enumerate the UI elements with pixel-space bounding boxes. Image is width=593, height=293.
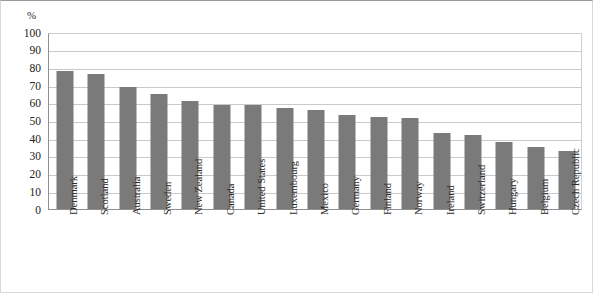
y-tick-label: 30 xyxy=(5,151,41,162)
x-tick-slot: Sweden xyxy=(142,213,173,293)
x-tick-slot: Canada xyxy=(205,213,236,293)
x-tick-label: Scotland xyxy=(100,178,111,215)
plot-area xyxy=(48,33,582,210)
x-tick-label: Canada xyxy=(226,184,237,216)
x-tick-slot: Norway xyxy=(394,213,425,293)
x-tick-label: Finland xyxy=(383,183,394,215)
y-tick-label: 70 xyxy=(5,81,41,92)
y-tick-label: 10 xyxy=(5,187,41,198)
x-tick-slot: Denmark xyxy=(48,213,79,293)
x-tick-slot: Ireland xyxy=(425,213,456,293)
x-tick-label: Denmark xyxy=(69,176,80,215)
y-tick-label: 40 xyxy=(5,134,41,145)
x-tick-label: Mexico xyxy=(320,183,331,215)
x-tick-label: Australia xyxy=(132,177,143,216)
x-tick-label: Norway xyxy=(414,181,425,215)
x-tick-slot: New Zealand xyxy=(174,213,205,293)
y-tick-label: 50 xyxy=(5,116,41,127)
y-axis-unit-label: % xyxy=(27,10,36,21)
bar-slot xyxy=(426,34,457,209)
x-tick-slot: Czech Republic xyxy=(551,213,582,293)
x-tick-label: Sweden xyxy=(163,182,174,215)
x-tick-label: Luxembourg xyxy=(289,161,300,215)
x-tick-slot: United States xyxy=(236,213,267,293)
x-tick-slot: Australia xyxy=(111,213,142,293)
x-tick-label: Ireland xyxy=(446,185,457,215)
y-tick-label: 60 xyxy=(5,98,41,109)
chart-figure: % 0102030405060708090100 DenmarkScotland… xyxy=(0,0,593,293)
y-tick-label: 100 xyxy=(5,28,41,39)
x-tick-label: Belgium xyxy=(540,179,551,215)
y-tick-label: 0 xyxy=(5,205,41,216)
x-tick-slot: Germany xyxy=(331,213,362,293)
x-tick-slot: Mexico xyxy=(299,213,330,293)
x-tick-slot: Finland xyxy=(362,213,393,293)
y-tick-label: 20 xyxy=(5,169,41,180)
x-tick-label: New Zealand xyxy=(194,159,205,215)
x-tick-label: Czech Republic xyxy=(571,148,582,215)
x-tick-label: Switzerland xyxy=(477,165,488,215)
bar-series xyxy=(49,34,581,209)
y-tick-label: 90 xyxy=(5,45,41,56)
y-tick-label: 80 xyxy=(5,63,41,74)
x-tick-slot: Scotland xyxy=(79,213,110,293)
x-tick-label: Germany xyxy=(351,176,362,215)
x-axis-tick-labels: DenmarkScotlandAustraliaSwedenNew Zealan… xyxy=(48,213,582,293)
x-tick-slot: Belgium xyxy=(519,213,550,293)
x-tick-label: Hungary xyxy=(508,178,519,215)
x-tick-slot: Luxembourg xyxy=(268,213,299,293)
x-tick-slot: Switzerland xyxy=(456,213,487,293)
x-tick-label: United States xyxy=(257,159,268,215)
x-tick-slot: Hungary xyxy=(488,213,519,293)
